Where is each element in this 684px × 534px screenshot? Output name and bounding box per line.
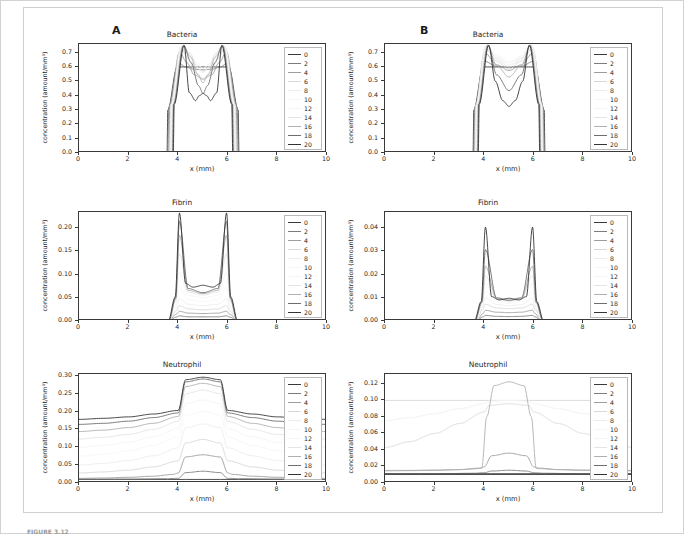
legend-item[interactable]: 2 <box>591 227 627 236</box>
legend-item[interactable]: 2 <box>285 389 321 398</box>
legend-label: 20 <box>610 470 618 479</box>
legend-item[interactable]: 10 <box>591 95 627 104</box>
legend-item[interactable]: 0 <box>591 50 627 59</box>
x-tick-mark <box>582 152 583 155</box>
legend-item[interactable]: 8 <box>591 416 627 425</box>
legend-item[interactable]: 14 <box>285 443 321 452</box>
legend-item[interactable]: 6 <box>591 407 627 416</box>
legend-item[interactable]: 12 <box>591 272 627 281</box>
legend-item[interactable]: 2 <box>591 59 627 68</box>
legend-swatch <box>288 249 301 250</box>
legend-item[interactable]: 14 <box>285 281 321 290</box>
legend-item[interactable]: 10 <box>285 263 321 272</box>
legend-label: 2 <box>610 389 614 398</box>
y-tick-label: 0.2 <box>338 119 378 126</box>
legend-item[interactable]: 12 <box>285 272 321 281</box>
legend-item[interactable]: 2 <box>285 59 321 68</box>
legend-item[interactable]: 16 <box>285 122 321 131</box>
x-tick-label: 8 <box>266 323 286 330</box>
legend-item[interactable]: 20 <box>591 308 627 317</box>
legend-label: 6 <box>304 407 308 416</box>
legend-item[interactable]: 18 <box>591 299 627 308</box>
legend-item[interactable]: 20 <box>285 140 321 149</box>
legend-item[interactable]: 18 <box>285 131 321 140</box>
legend-label: 4 <box>610 398 614 407</box>
legend-label: 12 <box>304 272 312 281</box>
x-tick-mark <box>78 482 79 485</box>
legend-item[interactable]: 10 <box>285 425 321 434</box>
legend-swatch <box>594 429 607 430</box>
legend-swatch <box>594 108 607 109</box>
legend-item[interactable]: 14 <box>591 281 627 290</box>
legend-item[interactable]: 2 <box>285 227 321 236</box>
legend-item[interactable]: 12 <box>591 434 627 443</box>
legend-item[interactable]: 0 <box>285 50 321 59</box>
legend-item[interactable]: 8 <box>285 416 321 425</box>
legend-item[interactable]: 16 <box>591 452 627 461</box>
legend-label: 12 <box>304 104 312 113</box>
legend-item[interactable]: 6 <box>285 407 321 416</box>
legend-label: 16 <box>610 452 618 461</box>
legend-item[interactable]: 18 <box>591 461 627 470</box>
y-tick-label: 0.3 <box>338 105 378 112</box>
legend: 02468101214161820 <box>284 47 322 150</box>
legend-swatch <box>288 456 301 457</box>
legend-item[interactable]: 20 <box>591 140 627 149</box>
legend-item[interactable]: 2 <box>591 389 627 398</box>
legend-item[interactable]: 16 <box>285 290 321 299</box>
legend-item[interactable]: 0 <box>591 218 627 227</box>
legend-item[interactable]: 8 <box>285 254 321 263</box>
x-tick-mark <box>326 482 327 485</box>
legend-label: 6 <box>610 407 614 416</box>
legend-item[interactable]: 20 <box>285 308 321 317</box>
legend-item[interactable]: 18 <box>285 299 321 308</box>
x-tick-mark <box>533 320 534 323</box>
legend-item[interactable]: 14 <box>591 113 627 122</box>
legend-item[interactable]: 16 <box>285 452 321 461</box>
legend-item[interactable]: 0 <box>591 380 627 389</box>
legend-item[interactable]: 0 <box>285 218 321 227</box>
legend-item[interactable]: 8 <box>591 254 627 263</box>
x-tick-label: 10 <box>316 323 336 330</box>
legend-item[interactable]: 16 <box>591 290 627 299</box>
legend-swatch <box>288 117 301 118</box>
legend-label: 4 <box>610 68 614 77</box>
x-tick-label: 2 <box>424 155 444 162</box>
legend-item[interactable]: 4 <box>591 236 627 245</box>
legend-item[interactable]: 18 <box>285 461 321 470</box>
legend-swatch <box>594 411 607 412</box>
legend-swatch <box>288 231 301 232</box>
legend-item[interactable]: 6 <box>285 245 321 254</box>
legend-item[interactable]: 8 <box>285 86 321 95</box>
y-tick-mark <box>75 375 78 376</box>
legend-item[interactable]: 18 <box>591 131 627 140</box>
legend-item[interactable]: 14 <box>285 113 321 122</box>
legend-swatch <box>594 72 607 73</box>
legend-item[interactable]: 6 <box>285 77 321 86</box>
legend-item[interactable]: 4 <box>591 398 627 407</box>
legend-item[interactable]: 12 <box>591 104 627 113</box>
legend-item[interactable]: 10 <box>591 263 627 272</box>
legend-item[interactable]: 6 <box>591 245 627 254</box>
y-tick-label: 0.25 <box>32 389 72 396</box>
legend-item[interactable]: 12 <box>285 434 321 443</box>
legend-item[interactable]: 4 <box>591 68 627 77</box>
legend-item[interactable]: 16 <box>591 122 627 131</box>
legend-label: 4 <box>304 236 308 245</box>
legend-item[interactable]: 10 <box>285 95 321 104</box>
legend-item[interactable]: 12 <box>285 104 321 113</box>
x-tick-label: 2 <box>424 323 444 330</box>
legend-item[interactable]: 14 <box>591 443 627 452</box>
legend-item[interactable]: 4 <box>285 398 321 407</box>
legend-item[interactable]: 4 <box>285 68 321 77</box>
legend-label: 20 <box>304 470 312 479</box>
legend-item[interactable]: 6 <box>591 77 627 86</box>
x-axis-label: x (mm) <box>78 495 326 503</box>
legend-item[interactable]: 20 <box>591 470 627 479</box>
legend-item[interactable]: 4 <box>285 236 321 245</box>
legend-item[interactable]: 8 <box>591 86 627 95</box>
legend-label: 8 <box>304 254 308 263</box>
legend-item[interactable]: 0 <box>285 380 321 389</box>
legend-item[interactable]: 20 <box>285 470 321 479</box>
legend-item[interactable]: 10 <box>591 425 627 434</box>
